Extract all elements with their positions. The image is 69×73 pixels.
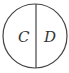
- region-label-d: D: [43, 28, 56, 46]
- diagram: C D: [0, 0, 69, 73]
- circle-outline: [3, 4, 67, 68]
- region-label-c: C: [18, 28, 30, 46]
